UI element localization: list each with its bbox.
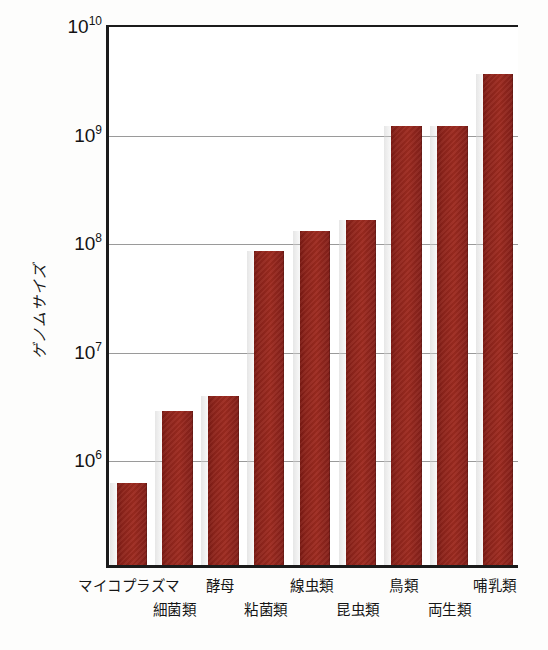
y-tick-label: 1010 — [68, 16, 103, 38]
bar — [300, 231, 330, 565]
x-axis-label: 哺乳類 — [473, 574, 517, 595]
x-axis-label: 粘菌類 — [244, 598, 288, 619]
x-axis-label: マイコプラズマ — [78, 574, 180, 595]
bar — [437, 126, 467, 565]
bar — [391, 126, 421, 565]
y-tick-label: 108 — [74, 233, 102, 255]
bar — [208, 396, 238, 565]
caption-strip — [0, 626, 548, 650]
y-tick-label: 106 — [74, 450, 102, 472]
x-axis-label: 両生類 — [428, 598, 472, 619]
y-tick-label: 107 — [74, 341, 102, 363]
bar — [346, 220, 376, 565]
x-axis-label: 細菌類 — [153, 598, 197, 619]
bars-group — [109, 27, 518, 565]
bar — [254, 251, 284, 565]
bar — [117, 483, 147, 565]
bar — [162, 411, 192, 565]
y-tick-label: 109 — [74, 124, 102, 146]
x-axis-label: 酵母 — [206, 574, 235, 595]
x-axis-label: 鳥類 — [389, 574, 418, 595]
genome-size-bar-chart: ゲノムサイズ 1061071081091010 マイコプラズマ酵母線虫類鳥類哺乳… — [0, 0, 548, 650]
bar — [483, 74, 513, 565]
x-axis-label: 昆虫類 — [336, 598, 380, 619]
x-axis-label: 線虫類 — [290, 574, 334, 595]
plot-area: 1061071081091010 — [106, 25, 518, 568]
y-axis-title: ゲノムサイズ — [28, 211, 49, 411]
